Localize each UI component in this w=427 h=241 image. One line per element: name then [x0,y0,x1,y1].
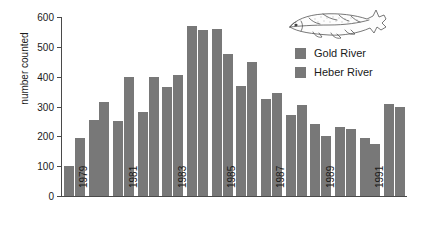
bar-1982-heber-river [149,77,159,196]
bar-1988-gold-river [286,115,296,196]
y-tick-label: 0 [48,191,54,202]
x-tick-label-1989: 1989 [325,166,336,188]
bar-1988-heber-river [297,105,307,196]
legend-item-heber-river: Heber River [295,65,373,79]
x-tick-label-1983: 1983 [177,166,188,188]
salmon-illustration-icon [287,6,390,40]
bar-1990-heber-river [346,129,356,196]
bar-1982-gold-river [138,112,148,196]
bar-1983-gold-river [162,87,172,196]
bar-1992-gold-river [384,104,394,196]
y-tick-label: 100 [37,161,54,172]
x-tick-label-1981: 1981 [128,166,139,188]
bar-1986-gold-river [236,86,246,196]
bar-1980-gold-river [89,120,99,196]
legend-swatch-heber-river [295,67,306,78]
y-tick-mark [57,107,62,108]
bar-1989-gold-river [310,124,320,196]
y-tick-mark [57,77,62,78]
y-tick-label: 200 [37,131,54,142]
legend-item-gold-river: Gold River [295,46,373,60]
x-axis-line [61,196,407,197]
y-tick-mark [57,196,62,197]
bar-1986-heber-river [247,62,257,196]
x-tick-label-1991: 1991 [374,166,385,188]
bar-1984-heber-river [198,30,208,196]
legend-label-heber-river: Heber River [314,66,373,78]
y-tick-label: 600 [37,12,54,23]
bar-1992-heber-river [395,107,405,197]
y-axis-title: number counted [19,9,30,129]
bar-1980-heber-river [99,102,109,196]
x-tick-label-1985: 1985 [226,166,237,188]
y-tick-label: 400 [37,71,54,82]
bar-1985-gold-river [212,29,222,196]
bar-1979-gold-river [64,166,74,196]
x-tick-label-1987: 1987 [275,166,286,188]
y-tick-label: 300 [37,101,54,112]
y-tick-mark [57,166,62,167]
bar-1987-gold-river [261,99,271,196]
y-tick-mark [57,17,62,18]
chart-legend: Gold River Heber River [295,46,373,84]
y-tick-label: 500 [37,41,54,52]
bar-1984-gold-river [187,26,197,196]
bar-chart: number counted 0100200300400500600 [0,0,427,241]
legend-swatch-gold-river [295,48,306,59]
bar-1990-gold-river [335,127,345,196]
y-tick-mark [57,47,62,48]
legend-label-gold-river: Gold River [314,47,366,59]
y-tick-mark [57,136,62,137]
bar-1981-gold-river [113,121,123,196]
x-tick-label-1979: 1979 [78,166,89,188]
bar-1991-gold-river [360,138,370,196]
